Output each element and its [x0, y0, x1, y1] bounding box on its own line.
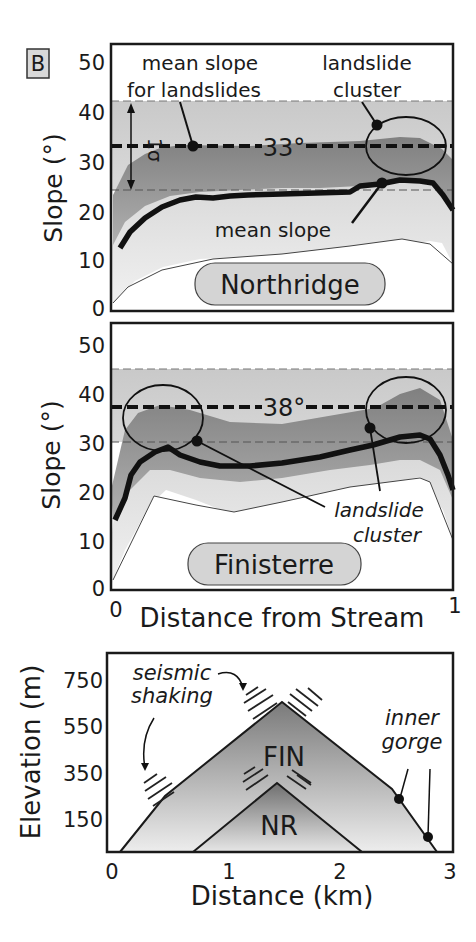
inner-gorge-marker-1 [394, 794, 404, 804]
svg-text:50: 50 [78, 51, 105, 75]
x-tick-1: 1 [448, 594, 461, 618]
northridge-y-ticks: 50 40 30 20 10 0 [78, 51, 105, 321]
inner-gorge-marker-2 [423, 832, 433, 842]
svg-text:750: 750 [63, 669, 103, 693]
ann-mean-slope-landslides-l2: for landslides [127, 78, 261, 102]
chart-elevation-profiles: FIN NR seismic shaking [16, 653, 457, 911]
svg-text:40: 40 [78, 383, 105, 407]
ann-mean-slope-landslides-l1: mean slope [142, 51, 258, 75]
x-tick-0: 0 [109, 598, 122, 622]
svg-text:3: 3 [443, 860, 456, 884]
elevation-y-axis-label: Elevation (m) [16, 665, 46, 840]
ann-landslide-cluster-mid-l2: cluster [353, 523, 423, 547]
finisterre-y-axis-label: Slope (°) [37, 400, 66, 509]
marker-mean-slope [377, 178, 388, 189]
ann-mean-slope: mean slope [215, 218, 331, 242]
chart-finisterre: 38° landslide cluster Finisterre 50 40 3… [37, 323, 462, 633]
svg-text:350: 350 [63, 762, 103, 786]
svg-text:0: 0 [92, 297, 105, 321]
elevation-y-ticks: 750 550 350 150 [63, 669, 103, 832]
marker-cluster-right [365, 423, 376, 434]
svg-text:0: 0 [105, 860, 118, 884]
marker-cluster-left [192, 436, 203, 447]
marker-mean-landslides [188, 141, 199, 152]
svg-text:40: 40 [78, 101, 105, 125]
svg-text:30: 30 [78, 151, 105, 175]
svg-text:150: 150 [63, 808, 103, 832]
nr-label: NR [260, 811, 298, 841]
ann-inner-gorge-l2: gorge [381, 730, 442, 754]
chart-northridge: 33° 1σ mean slope for landslides landsli… [39, 44, 453, 321]
x-axis-label-distance-from-stream: Distance from Stream [140, 603, 425, 633]
ann-landslide-cluster-l2: cluster [333, 78, 402, 102]
site-badge-finisterre: Finisterre [188, 543, 361, 585]
northridge-33-label: 33° [263, 134, 306, 162]
svg-text:50: 50 [78, 334, 105, 358]
svg-text:10: 10 [78, 249, 105, 273]
svg-text:0: 0 [92, 577, 105, 601]
site-label-finisterre: Finisterre [214, 550, 334, 580]
sigma-label: 1σ [144, 138, 166, 162]
finisterre-38-label: 38° [263, 394, 306, 422]
svg-text:30: 30 [78, 432, 105, 456]
ann-seismic-l1: seismic [133, 661, 212, 685]
ann-seismic-l2: shaking [131, 684, 213, 708]
svg-text:20: 20 [78, 481, 105, 505]
site-label-northridge: Northridge [220, 270, 360, 300]
ann-landslide-cluster-mid-l1: landslide [334, 498, 424, 522]
elevation-x-axis-label: Distance (km) [191, 881, 374, 911]
seismic-arrow-right [218, 673, 243, 688]
finisterre-y-ticks: 50 40 30 20 10 0 [78, 334, 105, 601]
panel-label-b: B [27, 49, 49, 78]
northridge-y-axis-label: Slope (°) [39, 133, 68, 242]
figure-canvas: B 33° 1σ mean slope [0, 0, 476, 942]
ann-inner-gorge-l1: inner [385, 706, 440, 730]
svg-text:20: 20 [78, 201, 105, 225]
ann-landslide-cluster-l1: landslide [322, 51, 412, 75]
panel-label-text: B [31, 52, 45, 76]
site-badge-northridge: Northridge [195, 263, 385, 305]
fin-label: FIN [263, 742, 305, 772]
seismic-arrow-left [144, 718, 154, 768]
svg-text:550: 550 [63, 715, 103, 739]
svg-text:10: 10 [78, 530, 105, 554]
